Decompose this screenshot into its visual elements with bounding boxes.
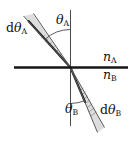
medium-upper-n: n	[103, 49, 111, 64]
medium-lower-label: nB	[103, 69, 117, 82]
refracted-spread-d: d	[100, 102, 108, 117]
incident-spread-theta: θ	[14, 20, 22, 35]
medium-upper-label: nA	[103, 51, 117, 64]
refracted-spread-subscript: B	[116, 109, 122, 118]
incident-angle-label: θA	[56, 14, 69, 27]
incident-spread-d: d	[6, 20, 14, 35]
refracted-ray-left	[71, 68, 98, 133]
refracted-spread-theta: θ	[108, 102, 116, 117]
refracted-spread-label: dθB	[100, 104, 121, 117]
medium-upper-subscript: A	[111, 56, 117, 65]
medium-lower-n: n	[103, 67, 111, 82]
refracted-angle-subscript: B	[73, 108, 79, 117]
medium-lower-subscript: B	[111, 74, 117, 83]
refraction-diagram: dθA θA nA nB θB dθB	[0, 0, 135, 141]
incident-spread-subscript: A	[22, 27, 28, 36]
incident-angle-subscript: A	[64, 19, 70, 28]
refracted-ray-right	[71, 68, 105, 128]
refracted-angle-theta: θ	[65, 101, 73, 116]
incident-angle-theta: θ	[56, 12, 64, 27]
refracted-angle-label: θB	[65, 103, 78, 116]
incident-spread-label: dθA	[6, 22, 27, 35]
